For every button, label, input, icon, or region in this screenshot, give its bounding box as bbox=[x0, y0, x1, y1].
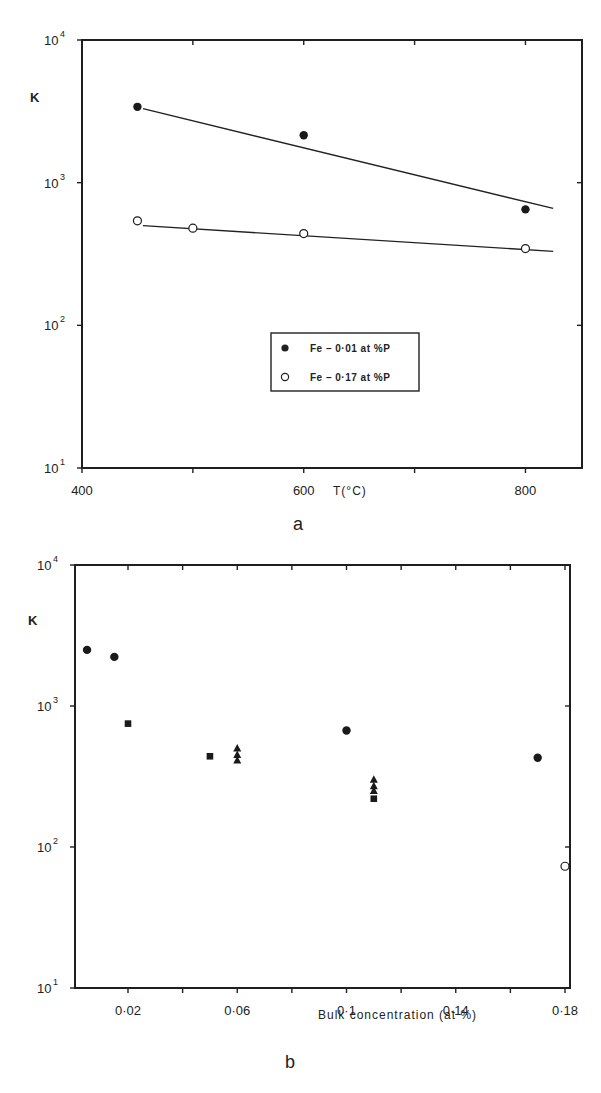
x-tick-label: 600 bbox=[293, 483, 315, 498]
chart-b-plot-frame bbox=[75, 565, 570, 988]
data-point-triangle bbox=[233, 744, 241, 752]
plot-area-border bbox=[75, 565, 570, 988]
y-tick-exponent: 3 bbox=[53, 695, 58, 705]
y-tick-label: 10 bbox=[37, 840, 51, 855]
data-point-filled-circle bbox=[521, 205, 529, 213]
chart-a-fit-lines bbox=[143, 109, 553, 252]
data-point-open-circle bbox=[189, 224, 197, 232]
data-point-filled-circle bbox=[83, 646, 91, 654]
chart-b-y-axis-ticks: 101102103104 bbox=[37, 554, 570, 996]
data-point-open-circle bbox=[561, 862, 569, 870]
x-tick-label: 0·02 bbox=[115, 1003, 141, 1018]
data-point-square bbox=[207, 753, 214, 760]
data-point-open-circle bbox=[300, 230, 308, 238]
y-tick-exponent: 3 bbox=[60, 172, 65, 182]
x-tick-label: 0·18 bbox=[552, 1003, 578, 1018]
data-point-open-circle bbox=[521, 245, 529, 253]
data-point-open-circle bbox=[133, 217, 141, 225]
legend-entry-fe-017: Fe – 0·17 at %P bbox=[310, 372, 390, 383]
y-tick-label: 10 bbox=[44, 33, 58, 48]
chart-a-temperature-dependence: 101102103104 400600800 K T(°C) a Fe – 0·… bbox=[30, 29, 582, 534]
data-point-square bbox=[125, 720, 132, 727]
y-tick-label: 10 bbox=[44, 461, 58, 476]
data-point-filled-circle bbox=[533, 753, 541, 761]
chart-a-y-axis-label: K bbox=[30, 90, 40, 105]
data-point-square bbox=[371, 795, 378, 802]
y-tick-exponent: 4 bbox=[53, 554, 58, 564]
legend-entry-fe-001: Fe – 0·01 at %P bbox=[310, 343, 390, 354]
chart-a-y-axis-ticks: 101102103104 bbox=[44, 29, 582, 476]
chart-b-y-axis-label: K bbox=[28, 613, 38, 628]
x-tick-label: 800 bbox=[515, 483, 537, 498]
data-point-filled-circle bbox=[300, 131, 308, 139]
x-tick-label: 0·06 bbox=[224, 1003, 250, 1018]
chart-b-x-axis-label: Bulk concentration (at %) bbox=[318, 1008, 477, 1022]
x-tick-label: 400 bbox=[71, 483, 93, 498]
y-tick-exponent: 1 bbox=[60, 457, 65, 467]
y-tick-label: 10 bbox=[37, 558, 51, 573]
y-tick-label: 10 bbox=[44, 318, 58, 333]
data-point-filled-circle bbox=[342, 726, 350, 734]
figure: 101102103104 400600800 K T(°C) a Fe – 0·… bbox=[0, 0, 601, 1093]
chart-b-x-axis-ticks: 0·020·060·10·140·18 bbox=[115, 565, 578, 1018]
y-tick-label: 10 bbox=[44, 176, 58, 191]
chart-b-data-points bbox=[83, 646, 569, 871]
data-point-filled-circle bbox=[110, 653, 118, 661]
y-tick-exponent: 1 bbox=[53, 977, 58, 987]
chart-a-legend: Fe – 0·01 at %P Fe – 0·17 at %P bbox=[271, 333, 419, 391]
plot-area-border bbox=[82, 40, 582, 468]
chart-a-plot-frame bbox=[82, 40, 582, 468]
fit-line bbox=[143, 109, 553, 209]
data-point-triangle bbox=[370, 775, 378, 783]
chart-a-data-points bbox=[133, 103, 529, 253]
y-tick-exponent: 2 bbox=[53, 836, 58, 846]
filled-circle-marker-icon bbox=[281, 344, 288, 351]
open-circle-marker-icon bbox=[281, 373, 288, 380]
fit-line bbox=[143, 226, 553, 252]
y-tick-label: 10 bbox=[37, 981, 51, 996]
chart-b-caption: b bbox=[285, 1052, 295, 1072]
chart-a-x-axis-label: T(°C) bbox=[333, 484, 367, 498]
data-point-filled-circle bbox=[133, 103, 141, 111]
y-tick-label: 10 bbox=[37, 699, 51, 714]
y-tick-exponent: 2 bbox=[60, 314, 65, 324]
y-tick-exponent: 4 bbox=[60, 29, 65, 39]
chart-b-concentration-dependence: 101102103104 0·020·060·10·140·18 K Bulk … bbox=[28, 554, 578, 1072]
chart-a-caption: a bbox=[293, 514, 304, 534]
